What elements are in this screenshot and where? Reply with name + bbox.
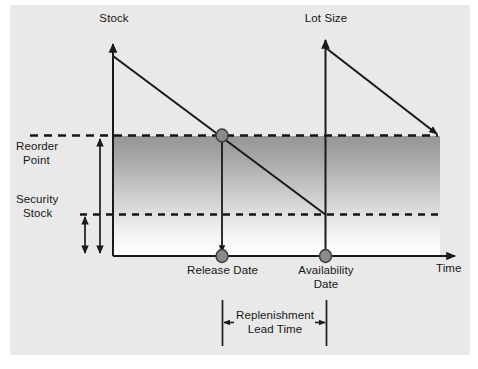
security-stock-label-line2: Stock (23, 207, 83, 221)
availability-date-label-line1: Availability (282, 264, 370, 278)
security-stock-label-line1: Security (16, 193, 80, 207)
release-date-label: Release Date (175, 264, 270, 278)
release-date-marker (216, 250, 228, 263)
lot-size-axis-label: Lot Size (289, 12, 363, 26)
reorder-point-label-line2: Point (23, 154, 83, 168)
stock-band-gradient (113, 136, 440, 255)
availability-date-marker (320, 250, 332, 263)
reorder-point-label-line1: Reorder (16, 140, 80, 154)
time-axis-label: Time (436, 262, 476, 276)
stock-depletion-line-2 (326, 48, 437, 134)
stock-axis-label: Stock (78, 12, 150, 26)
availability-date-label-line2: Date (282, 278, 370, 292)
diagram-root: Stock Lot Size Time Reorder Point Securi… (0, 0, 478, 369)
lead-time-label-line1: Replenishment (230, 309, 320, 323)
reorder-crossing-marker (216, 129, 228, 142)
lead-time-label-line2: Lead Time (230, 323, 320, 337)
